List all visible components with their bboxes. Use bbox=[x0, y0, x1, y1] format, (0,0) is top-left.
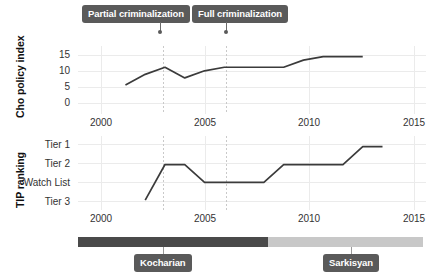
annotation-label-full-criminalization: Full criminalization bbox=[192, 5, 288, 23]
ytick-tip-tier3: Tier 3 bbox=[16, 197, 70, 207]
xtick-tip-2010: 2010 bbox=[291, 214, 327, 224]
xtick-cho-2015: 2015 bbox=[396, 118, 429, 128]
ytick-tip-tier1: Tier 1 bbox=[16, 140, 70, 150]
presidency-segment-kocharian bbox=[78, 237, 268, 247]
ytick-cho-0: 0 bbox=[48, 98, 70, 108]
presidency-label-kocharian: Kocharian bbox=[134, 254, 192, 272]
chart-figure: Partial criminalization Full criminaliza… bbox=[0, 0, 429, 277]
xtick-cho-2005: 2005 bbox=[187, 118, 223, 128]
ytick-tip-tier2: Tier 2 bbox=[16, 159, 70, 169]
xtick-cho-2000: 2000 bbox=[83, 118, 119, 128]
ytick-cho-5: 5 bbox=[48, 82, 70, 92]
xtick-cho-2010: 2010 bbox=[291, 118, 327, 128]
ytick-cho-10: 10 bbox=[48, 66, 70, 76]
series-line-tip-ranking bbox=[78, 136, 426, 210]
plot-area-tip-ranking bbox=[78, 136, 426, 210]
annotation-dot-partial-criminalization bbox=[158, 30, 162, 34]
xtick-tip-2000: 2000 bbox=[83, 214, 119, 224]
annotation-label-partial-criminalization: Partial criminalization bbox=[82, 5, 190, 23]
plot-area-cho-policy-index bbox=[78, 46, 426, 114]
ytick-cho-15: 15 bbox=[48, 50, 70, 60]
series-line-cho-policy-index bbox=[78, 46, 426, 114]
xtick-tip-2005: 2005 bbox=[187, 214, 223, 224]
xtick-tip-2015: 2015 bbox=[396, 214, 429, 224]
presidency-segment-sarkisyan bbox=[268, 237, 423, 247]
ytick-tip-watchlist: Watch List bbox=[16, 178, 70, 188]
presidency-label-sarkisyan: Sarkisyan bbox=[323, 254, 379, 272]
presidency-timeline bbox=[78, 237, 423, 247]
annotation-dot-full-criminalization bbox=[224, 30, 228, 34]
axis-title-cho-policy-index: Cho policy index bbox=[14, 36, 26, 118]
